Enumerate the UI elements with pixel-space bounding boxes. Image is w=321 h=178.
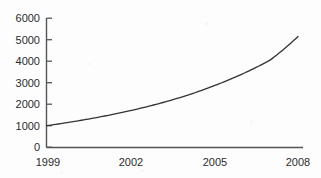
y-axis-label-3000: 3000	[0, 78, 40, 89]
y-axis-label-2000: 2000	[0, 99, 40, 110]
x-axis-label-1999: 1999	[28, 157, 68, 168]
x-axis-label-2005: 2005	[195, 157, 235, 168]
x-axis-label-2002: 2002	[111, 157, 151, 168]
plot-area	[0, 0, 321, 178]
y-axis-label-5000: 5000	[0, 35, 40, 46]
y-axis-label-1000: 1000	[0, 121, 40, 132]
x-axis-label-2008: 2008	[278, 157, 318, 168]
y-axis-label-0: 0	[0, 142, 40, 153]
y-axis-label-6000: 6000	[0, 13, 40, 24]
y-axis-label-4000: 4000	[0, 56, 40, 67]
data-series-line	[47, 36, 299, 125]
line-chart: 6000 5000 4000 3000 2000 1000 0 1999 200…	[0, 0, 321, 178]
